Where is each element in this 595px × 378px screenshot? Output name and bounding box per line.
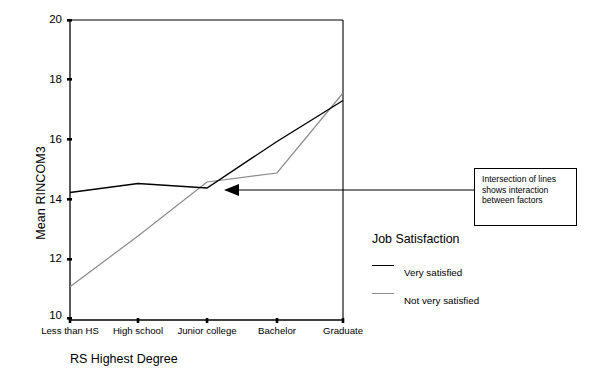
x-tick-label-less-than-hs: Less than HS: [41, 325, 99, 336]
x-tick-label-bachelor: Bachelor: [258, 325, 296, 336]
y-tick-label-16: 16: [36, 134, 62, 145]
y-tick-label-20: 20: [36, 14, 62, 25]
legend-label-not-very-satisfied: Not very satisfied: [404, 295, 479, 306]
callout-arrow: [224, 184, 474, 196]
legend-item-very-satisfied: Very satisfied: [372, 257, 522, 285]
y-tick-label-12: 12: [36, 253, 62, 264]
annotation-callout-text: Intersection of lines shows interaction …: [482, 174, 570, 206]
y-tick-label-18: 18: [36, 74, 62, 85]
legend-swatch-very-satisfied: [372, 265, 394, 266]
y-tick-label-14: 14: [36, 194, 62, 205]
line-chart-figure: Mean RINCOM3 20 18 16 14 12 10 Less than…: [0, 0, 595, 378]
annotation-callout-box: Intersection of lines shows interaction …: [474, 168, 577, 226]
legend-label-very-satisfied: Very satisfied: [404, 267, 462, 278]
series-line-very-satisfied: [70, 101, 343, 193]
legend-item-not-very-satisfied: Not very satisfied: [372, 285, 522, 313]
legend-title: Job Satisfaction: [372, 232, 522, 246]
chart-page: Mean RINCOM3 20 18 16 14 12 10 Less than…: [0, 0, 595, 378]
x-tick-label-high-school: High school: [113, 325, 163, 336]
x-tick-label-junior-college: Junior college: [177, 325, 236, 336]
y-tick-label-10: 10: [36, 310, 62, 321]
x-tick-label-graduate: Graduate: [323, 325, 363, 336]
legend-swatch-not-very-satisfied: [372, 293, 394, 294]
legend: Job Satisfaction Very satisfied Not very…: [372, 232, 522, 313]
x-axis-title: RS Highest Degree: [70, 352, 178, 366]
